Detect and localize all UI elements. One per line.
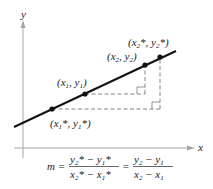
frac2-numerator: y2 − y1	[133, 153, 164, 167]
point-x1star-y1star	[49, 106, 54, 111]
point-x1-y1	[82, 91, 87, 96]
frac1-numerator: y2* − y1*	[69, 153, 111, 167]
y-axis-label: y	[20, 8, 26, 20]
formula-equals: =	[122, 160, 129, 172]
label-x2-y2: (x2, y2)	[107, 50, 137, 64]
frac2-denominator: x2 − x1	[133, 168, 164, 182]
formula-lhs: m =	[47, 160, 65, 172]
point-x2star-y2star	[157, 54, 162, 59]
frac1-denominator: x2* − x1*	[69, 168, 111, 182]
x-axis-label: x	[197, 141, 203, 153]
slope-diagram: y x (x1, y1) (x1*, y1*) (x2, y2) (x2*, y…	[0, 0, 213, 189]
straight-line	[14, 51, 176, 127]
point-x2-y2	[142, 62, 147, 67]
right-angle-mark-outer	[152, 102, 160, 109]
y-axis-arrow-icon	[21, 20, 26, 28]
slope-formula: m = y2* − y1* x2* − x1* = y2 − y1 x2 − x…	[47, 153, 173, 182]
label-x1star-y1star: (x1*, y1*)	[50, 117, 91, 131]
x-axis-arrow-icon	[187, 146, 195, 151]
label-x1-y1: (x1, y1)	[57, 76, 87, 90]
right-angle-mark-inner	[137, 87, 145, 94]
label-x2star-y2star: (x2*, y2*)	[128, 36, 169, 50]
